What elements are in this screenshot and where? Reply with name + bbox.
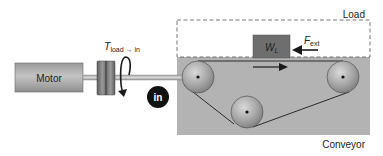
torque-subscript: load → in	[110, 46, 140, 53]
torque-label: Tload → in	[104, 40, 140, 53]
input-marker-label: in	[154, 92, 163, 103]
motor-label: Motor	[36, 73, 62, 84]
pulley-bottom	[231, 96, 263, 128]
coupling	[97, 61, 115, 95]
weight-subscript: L	[274, 47, 278, 54]
pulley-left	[182, 61, 214, 93]
pulley-right	[327, 61, 359, 93]
external-force-label: Fext	[304, 35, 320, 47]
force-subscript: ext	[310, 40, 319, 47]
load-region-label: Load	[343, 9, 365, 20]
conveyor-diagram: Motor Tload → in in WL	[0, 0, 383, 156]
conveyor-region-label: Conveyor	[322, 139, 365, 150]
input-marker-badge: in	[147, 86, 169, 108]
